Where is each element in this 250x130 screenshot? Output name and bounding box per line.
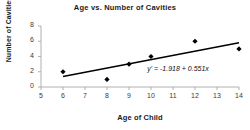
data-point-marker xyxy=(104,77,109,82)
data-point-marker xyxy=(60,69,65,74)
cavities-scatter-chart: Age vs. Number of Cavities Number of Cav… xyxy=(0,0,250,130)
data-point-marker xyxy=(148,54,153,59)
plot-area xyxy=(0,0,250,130)
data-point-marker xyxy=(236,46,241,51)
axis-lines xyxy=(41,26,239,87)
data-point-marker xyxy=(192,39,197,44)
regression-equation-label: y' = -1.918 + 0.551x xyxy=(147,65,209,72)
data-point-marker xyxy=(126,62,131,67)
axis-tick-marks xyxy=(38,26,239,90)
